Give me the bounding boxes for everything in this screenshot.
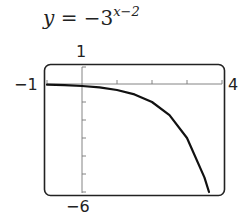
function-curve	[47, 85, 209, 192]
graph-window	[0, 0, 248, 216]
x-axis	[47, 80, 222, 84]
